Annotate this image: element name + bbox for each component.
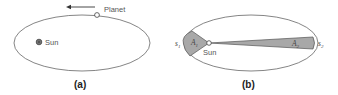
- arrow-head-icon: [66, 5, 71, 9]
- sun-core-a: [38, 41, 40, 43]
- caption-b: (b): [242, 79, 255, 90]
- panel-b: A1 Sun A2 s1 s2 (b): [175, 15, 324, 90]
- sun-marker-b: [207, 41, 212, 46]
- panel-a: Planet Sun (a): [14, 5, 150, 90]
- s2-label: s2: [318, 39, 324, 49]
- sun-label-a: Sun: [45, 38, 58, 47]
- orbit-a: [14, 15, 150, 71]
- planet-marker: [95, 13, 100, 18]
- s1-label: s1: [175, 39, 180, 49]
- caption-a: (a): [74, 79, 86, 90]
- planet-label: Planet: [104, 5, 126, 14]
- kepler-diagram: Planet Sun (a) A1 Sun A2 s1 s2 (b): [0, 0, 338, 95]
- sun-label-b: Sun: [203, 48, 216, 57]
